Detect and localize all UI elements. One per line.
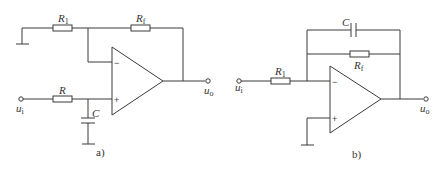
resistor-r-a (53, 96, 72, 102)
label-rf-a: Rf (135, 12, 146, 26)
output-label-a: uo (204, 84, 214, 98)
opamp-a (112, 47, 163, 115)
label-r1-a: R1 (57, 12, 69, 26)
inverting-input-wire-a (88, 28, 112, 62)
label-rf-b: Rf (353, 59, 364, 73)
input-label-b: ui (235, 81, 244, 95)
circuit-b: ui − + uo C Rf R1 b) (235, 16, 430, 161)
plus-sign: + (114, 95, 119, 105)
resistor-r1-b (271, 78, 290, 84)
resistor-r1-a (53, 25, 72, 31)
output-terminal-a (206, 79, 210, 83)
minus-sign: − (332, 77, 337, 87)
caption-b: b) (352, 148, 362, 161)
output-terminal-b (424, 97, 428, 101)
opamp-b (330, 66, 381, 133)
input-label-a: ui (16, 102, 25, 116)
label-c-b: C (342, 16, 350, 28)
output-label-b: uo (420, 102, 430, 116)
label-c-a: C (92, 107, 100, 119)
label-r1-b: R1 (274, 65, 286, 79)
plus-sign: + (332, 114, 337, 124)
label-r-a: R (58, 84, 66, 96)
minus-sign: − (114, 58, 119, 68)
ground-wire-a (22, 28, 53, 44)
input-terminal-a (19, 97, 23, 101)
circuit-a: − + uo ui R1 Rf R C a) (16, 12, 214, 159)
circuit-diagrams: − + uo ui R1 Rf R C a) (0, 0, 445, 170)
resistor-rf-a (131, 25, 150, 31)
resistor-rf-b (350, 51, 369, 57)
caption-a: a) (96, 146, 105, 159)
